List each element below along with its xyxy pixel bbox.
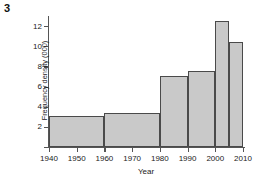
x-tick-label: 1990 — [173, 154, 203, 163]
histogram-figure: 3 24681012 19401950196019701980199020002… — [0, 0, 258, 184]
x-tick-mark — [132, 147, 133, 152]
x-tick-label: 1950 — [62, 154, 92, 163]
plot-area — [49, 16, 243, 147]
x-tick-mark — [104, 147, 105, 152]
histogram-bar — [49, 116, 104, 147]
histogram-bar — [215, 21, 229, 147]
x-tick-mark — [49, 147, 50, 152]
x-tick-label: 1970 — [117, 154, 147, 163]
x-axis-title: Year — [49, 167, 243, 177]
x-tick-label: 1940 — [34, 154, 64, 163]
histogram-bar — [188, 71, 216, 147]
histogram-bar — [160, 76, 188, 147]
x-tick-label: 1980 — [145, 154, 175, 163]
x-tick-label: 1960 — [89, 154, 119, 163]
x-tick-label: 2000 — [200, 154, 230, 163]
x-tick-mark — [243, 147, 244, 152]
y-axis-title: Frequency density (000) — [40, 33, 49, 129]
question-number: 3 — [4, 2, 10, 14]
histogram-bar — [104, 113, 159, 147]
y-axis-title-container: Frequency density (000) — [26, 20, 38, 140]
histogram-bar — [229, 42, 243, 147]
x-tick-mark — [77, 147, 78, 152]
x-tick-label: 2010 — [228, 154, 258, 163]
x-tick-mark — [188, 147, 189, 152]
x-tick-mark — [160, 147, 161, 152]
x-tick-mark — [215, 147, 216, 152]
